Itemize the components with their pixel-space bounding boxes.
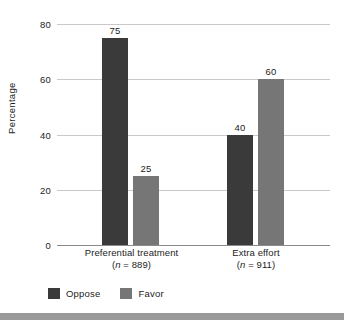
x-group-name: Preferential treatment: [85, 247, 179, 258]
bar-value-label: 75: [110, 25, 121, 36]
footer-rule: [0, 313, 344, 320]
x-group-sample-size: (n = 911): [194, 259, 318, 271]
y-tick-label-80: 80: [40, 19, 51, 30]
legend-label: Favor: [138, 288, 163, 299]
gridline-20: 20: [57, 190, 330, 191]
y-tick-label-40: 40: [40, 130, 51, 141]
plot-area: 80 60 40 20 0 75 25 40 60: [57, 24, 330, 245]
bar-extra-effort-oppose[interactable]: 40: [227, 135, 253, 245]
y-tick-label-60: 60: [40, 74, 51, 85]
bar-chart-figure: Percentage 80 60 40 20 0 75 25 40 60: [0, 0, 344, 326]
bar-value-label: 40: [235, 122, 246, 133]
x-group-label-extra-effort: Extra effort (n = 911): [194, 247, 318, 271]
gridline-80: 80: [57, 24, 330, 25]
x-group-name: Extra effort: [232, 247, 280, 258]
legend-swatch-icon: [120, 288, 132, 299]
chart-legend: Oppose Favor: [48, 288, 164, 299]
bar-preferential-treatment-oppose[interactable]: 75: [102, 38, 128, 245]
gridline-40: 40: [57, 135, 330, 136]
legend-item-favor[interactable]: Favor: [120, 288, 163, 299]
bar-value-label: 25: [141, 163, 152, 174]
gridline-60: 60: [57, 79, 330, 80]
bar-extra-effort-favor[interactable]: 60: [258, 79, 284, 245]
bar-preferential-treatment-favor[interactable]: 25: [133, 176, 159, 245]
legend-swatch-icon: [48, 288, 60, 299]
x-group-label-preferential-treatment: Preferential treatment (n = 889): [50, 247, 213, 271]
x-group-sample-size: (n = 889): [50, 259, 213, 271]
axis-baseline-0: 0: [57, 245, 330, 246]
bar-value-label: 60: [266, 66, 277, 77]
legend-item-oppose[interactable]: Oppose: [48, 288, 100, 299]
y-tick-label-20: 20: [40, 185, 51, 196]
legend-label: Oppose: [66, 288, 100, 299]
y-axis-title: Percentage: [6, 82, 17, 134]
